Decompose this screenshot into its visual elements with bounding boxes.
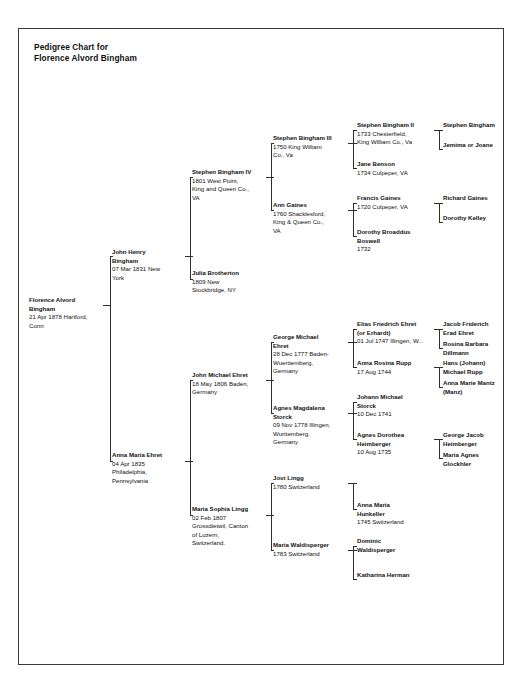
person-detail: 21 Apr 1878 Hartford, Conn	[29, 313, 109, 330]
person-node-p30[interactable]: Katharina Herman	[357, 571, 437, 580]
person-name: Stephen Bingham IV	[192, 168, 274, 177]
connector	[353, 329, 357, 330]
person-detail: 02 Feb 1807 Grossdietwil, Canton of Luze…	[192, 514, 274, 548]
connector	[190, 515, 193, 516]
person-node-p28[interactable]: Anna Maria Hunkeller 1745 Switzerland	[357, 501, 437, 527]
person-node-p16[interactable]: Stephen Bingham II 1733 Chesterfield, Ki…	[357, 121, 437, 147]
connector	[439, 439, 440, 459]
connector	[353, 439, 357, 440]
person-node-p19[interactable]: Dorothy Broaddus Boswell 1732	[357, 228, 437, 254]
connector	[353, 130, 354, 169]
person-detail: 01 Jul 1747 Illingen, W...	[357, 337, 437, 346]
person-node-p50[interactable]: Hans (Johann) Michael Rupp	[443, 359, 513, 376]
connector	[439, 329, 443, 330]
person-node-p37[interactable]: Dorothy Kelley	[443, 214, 513, 223]
person-name: John Henry Bingham	[112, 248, 192, 265]
person-node-p6[interactable]: John Michael Ehret 18 May 1806 Baden, Ge…	[192, 371, 274, 397]
connector	[353, 168, 357, 169]
person-name: Katharina Herman	[357, 571, 437, 580]
person-node-p51[interactable]: Anna Marie Mantz (Manz)	[443, 379, 513, 396]
person-detail: 10 Dec 1741	[357, 410, 437, 419]
connector	[439, 367, 440, 388]
person-node-p52[interactable]: George Jacob Heimberger	[443, 431, 513, 448]
person-name: Rosina Barbara Dillmann	[443, 340, 513, 357]
connector	[353, 329, 354, 368]
person-name: Dorothy Broaddus Boswell	[357, 228, 437, 245]
connector	[271, 483, 274, 484]
person-node-p14[interactable]: Jost Lingg 1780 Switzerland	[273, 474, 353, 491]
person-name: Maria Sophia Lingg	[192, 505, 274, 514]
connector	[353, 546, 357, 547]
connector	[266, 515, 274, 516]
person-node-p26[interactable]: Johann Michael Storck 10 Dec 1741	[357, 393, 437, 419]
person-node-p24[interactable]: Elias Friedrich Ehret (or Erhardt) 01 Ju…	[357, 320, 437, 346]
person-name: George Jacob Heimberger	[443, 431, 513, 448]
person-node-p33[interactable]: Jemima or Joane	[443, 141, 513, 150]
person-name: Julia Brotherton	[192, 269, 274, 278]
person-name: Florence Alvord Bingham	[29, 296, 109, 313]
connector	[271, 550, 274, 551]
person-detail: 1760 Shacklesford, King & Queen Co., VA	[273, 210, 353, 236]
person-node-mother[interactable]: Anna Maria Ehret 04 Apr 1835 Philadelphi…	[112, 451, 192, 485]
person-node-p13[interactable]: Agnes Magdalena Storck 09 Nov 1778 Illin…	[273, 404, 353, 447]
person-detail: 1745 Switzerland	[357, 518, 437, 527]
connector	[353, 203, 354, 237]
connector	[271, 342, 274, 343]
person-node-p8[interactable]: Stephen Bingham III 1750 King William Co…	[273, 134, 353, 160]
person-detail: 28 Dec 1777 Baden- Wuerttemberg, Germany	[273, 350, 353, 376]
person-detail: 1750 King William Co., Va	[273, 143, 353, 160]
person-detail: 1732	[357, 245, 437, 254]
connector	[439, 203, 440, 223]
connector	[353, 579, 357, 580]
person-name: Agnes Dorothea Heimberger	[357, 431, 437, 448]
person-node-p29[interactable]: Dominic Waldisperger	[357, 537, 437, 554]
connector	[439, 348, 443, 349]
person-node-p18[interactable]: Francis Gaines 1720 Culpeper, VA	[357, 194, 437, 211]
person-name: Jane Benson	[357, 160, 437, 169]
person-name: Maria Agnes Glockhler	[443, 451, 513, 468]
person-detail: 1733 Chesterfield, King William Co., Va	[357, 130, 437, 147]
person-node-root[interactable]: Florence Alvord Bingham 21 Apr 1878 Hart…	[29, 296, 109, 330]
connector	[353, 367, 357, 368]
person-node-p9[interactable]: Ann Gaines 1760 Shacklesford, King & Que…	[273, 201, 353, 235]
person-detail: 1734 Culpeper, VA	[357, 169, 437, 178]
person-detail: 17 Aug 1744	[357, 368, 437, 377]
connector	[439, 203, 443, 204]
person-node-p48[interactable]: Jacob Friderich Erad Ehret	[443, 320, 513, 337]
person-node-p12[interactable]: George Michael Ehret 28 Dec 1777 Baden- …	[273, 333, 353, 376]
connector	[353, 483, 354, 510]
person-detail: 10 Aug 1735	[357, 448, 437, 457]
person-node-p25[interactable]: Anna Rosina Rupp 17 Aug 1744	[357, 359, 437, 376]
person-node-p4[interactable]: Stephen Bingham IV 1801 West Point, King…	[192, 168, 274, 202]
person-name: Agnes Magdalena Storck	[273, 404, 353, 421]
connector	[353, 130, 357, 131]
person-node-p7[interactable]: Maria Sophia Lingg 02 Feb 1807 Grossdiet…	[192, 505, 274, 548]
connector	[353, 509, 357, 510]
connector	[353, 402, 354, 440]
person-name: Anna Maria Ehret	[112, 451, 192, 460]
person-name: Richard Gaines	[443, 194, 513, 203]
person-detail: 1720 Culpeper, VA	[357, 203, 437, 212]
person-name: Stephen Bingham III	[273, 134, 353, 143]
person-node-father[interactable]: John Henry Bingham 07 Mar 1831 New York	[112, 248, 192, 282]
connector	[190, 177, 191, 280]
connector	[353, 402, 357, 403]
person-node-p32[interactable]: Stephen Bingham	[443, 121, 513, 130]
page-title: Pedigree Chart for Florence Alvord Bingh…	[34, 42, 137, 64]
person-name: Ann Gaines	[273, 201, 353, 210]
person-name: Stephen Bingham II	[357, 121, 437, 130]
person-node-p17[interactable]: Jane Benson 1734 Culpeper, VA	[357, 160, 437, 177]
person-node-p49[interactable]: Rosina Barbara Dillmann	[443, 340, 513, 357]
person-node-p15[interactable]: Maria Waldisperger 1783 Switzerland	[273, 541, 353, 558]
person-node-p36[interactable]: Richard Gaines	[443, 194, 513, 203]
person-name: Maria Waldisperger	[273, 541, 353, 550]
person-node-p53[interactable]: Maria Agnes Glockhler	[443, 451, 513, 468]
person-node-p27[interactable]: Agnes Dorothea Heimberger 10 Aug 1735	[357, 431, 437, 457]
person-node-p5[interactable]: Julia Brotherton 1809 New Stockbridge, N…	[192, 269, 274, 295]
connector	[439, 149, 443, 150]
connector	[353, 203, 357, 204]
person-name: Dominic Waldisperger	[357, 537, 437, 554]
person-name: Jacob Friderich Erad Ehret	[443, 320, 513, 337]
connector	[271, 210, 274, 211]
connector	[190, 279, 193, 280]
